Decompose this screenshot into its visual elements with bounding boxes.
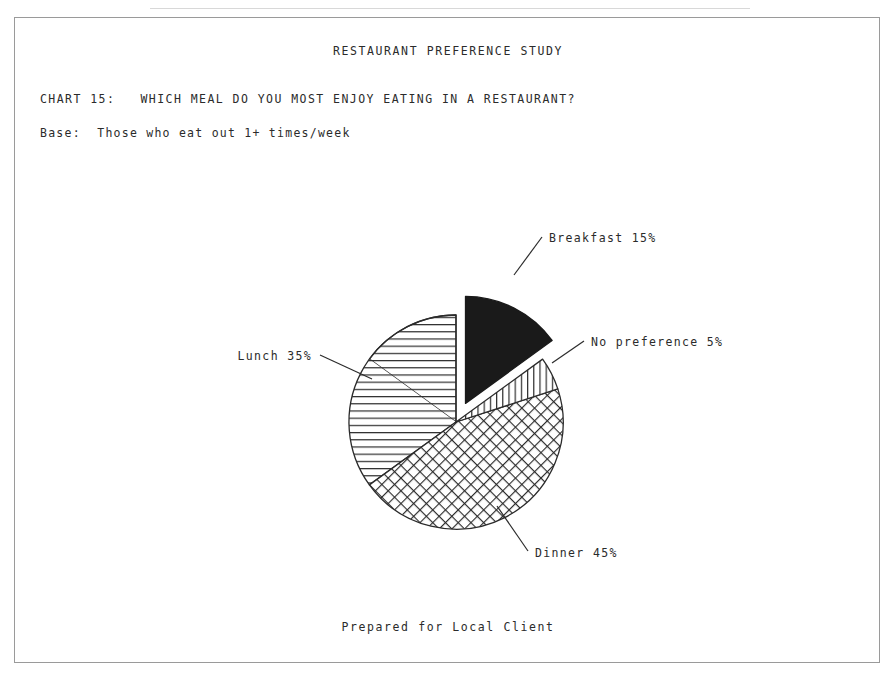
base-line: Base: Those who eat out 1+ times/week	[40, 126, 351, 140]
chart-question-line: CHART 15: WHICH MEAL DO YOU MOST ENJOY E…	[40, 92, 576, 106]
page-title: RESTAURANT PREFERENCE STUDY	[0, 44, 896, 58]
scan-edge-artifact	[150, 8, 750, 9]
page-frame	[14, 17, 880, 663]
footer-note: Prepared for Local Client	[0, 620, 896, 634]
